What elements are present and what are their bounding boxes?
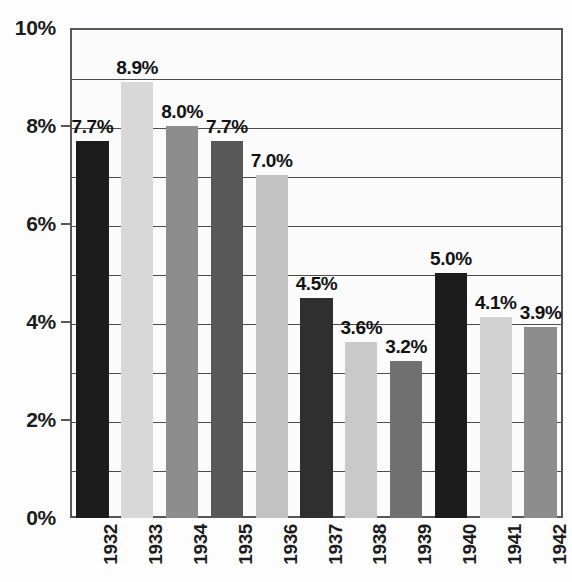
x-axis: 1932193319341935193619371938193919401941…: [70, 518, 563, 582]
x-axis-tick-label: 1942: [549, 524, 571, 565]
x-axis-tick-label: 1936: [280, 524, 302, 565]
bar-value-label: 7.7%: [72, 116, 114, 138]
y-axis-tick-label: 4%: [26, 310, 56, 334]
bar-value-label: 4.1%: [475, 292, 517, 314]
bar[interactable]: 8.0%: [166, 126, 198, 518]
bar[interactable]: 4.1%: [480, 317, 512, 518]
bar-value-label: 4.5%: [296, 273, 338, 295]
y-axis-tick: [61, 419, 70, 421]
x-axis-tick-label: 1941: [504, 524, 526, 565]
bars-layer: 7.7%8.9%8.0%7.7%7.0%4.5%3.6%3.2%5.0%4.1%…: [70, 28, 563, 518]
y-axis-tick-label: 0%: [26, 506, 56, 530]
bar[interactable]: 5.0%: [435, 273, 467, 518]
x-axis-tick-label: 1940: [459, 524, 481, 565]
bar[interactable]: 3.2%: [390, 361, 422, 518]
bar-value-label: 7.7%: [206, 116, 248, 138]
x-axis-tick-label: 1938: [369, 524, 391, 565]
bar[interactable]: 7.7%: [76, 141, 108, 518]
bar[interactable]: 3.6%: [345, 342, 377, 518]
bar-value-label: 7.0%: [251, 150, 293, 172]
y-axis-tick: [61, 125, 70, 127]
y-axis-tick-label: 2%: [26, 408, 56, 432]
bar-chart: 0%2%4%6%8%10% 7.7%8.9%8.0%7.7%7.0%4.5%3.…: [0, 0, 572, 582]
y-axis-tick: [61, 321, 70, 323]
y-axis: 0%2%4%6%8%10%: [0, 28, 70, 518]
bar-value-label: 8.0%: [161, 101, 203, 123]
bar-value-label: 3.9%: [520, 302, 562, 324]
x-axis-tick-label: 1939: [414, 524, 436, 565]
y-axis-tick-label: 6%: [26, 212, 56, 236]
x-axis-tick-label: 1933: [145, 524, 167, 565]
y-axis-tick-label: 8%: [26, 114, 56, 138]
bar[interactable]: 4.5%: [300, 298, 332, 519]
bar[interactable]: 3.9%: [524, 327, 556, 518]
bar-value-label: 3.2%: [385, 336, 427, 358]
x-axis-tick-label: 1932: [100, 524, 122, 565]
x-axis-tick-label: 1937: [325, 524, 347, 565]
x-axis-tick-label: 1935: [235, 524, 257, 565]
bar[interactable]: 7.0%: [256, 175, 288, 518]
bar-value-label: 3.6%: [340, 317, 382, 339]
x-axis-tick-label: 1934: [190, 524, 212, 565]
bar[interactable]: 8.9%: [121, 82, 153, 518]
bar-value-label: 8.9%: [116, 57, 158, 79]
bar[interactable]: 7.7%: [211, 141, 243, 518]
y-axis-tick-label: 10%: [15, 16, 56, 40]
y-axis-tick: [61, 223, 70, 225]
bar-value-label: 5.0%: [430, 248, 472, 270]
